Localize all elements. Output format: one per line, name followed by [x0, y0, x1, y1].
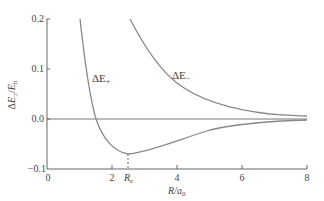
- x-tick-label: 0: [46, 172, 51, 183]
- y-axis-title: ΔE±/Eh: [6, 80, 19, 109]
- label-delta-e-plus: ΔE+: [92, 72, 111, 86]
- x-ticks: [112, 165, 307, 169]
- x-tick-label: 6: [240, 172, 245, 183]
- x-tick-label: 8: [305, 172, 310, 183]
- energy-curve-chart: 0.2 0.1 0.0 −0.1 0 2 4 6 8 Re R/a0 ΔE±/E…: [0, 0, 324, 201]
- x-tick-label: 4: [175, 172, 180, 183]
- y-tick-label: 0.0: [32, 113, 45, 124]
- y-tick-label: 0.1: [32, 63, 45, 74]
- curve-delta-e-minus: [130, 19, 307, 116]
- re-label: Re: [123, 172, 133, 185]
- curve-delta-e-plus: [80, 19, 307, 154]
- y-tick-label: 0.2: [32, 13, 45, 24]
- label-delta-e-minus: ΔE−: [172, 69, 191, 83]
- x-axis-title: R/a0: [167, 185, 186, 198]
- y-tick-label: −0.1: [28, 163, 46, 174]
- x-tick-label: 2: [110, 172, 115, 183]
